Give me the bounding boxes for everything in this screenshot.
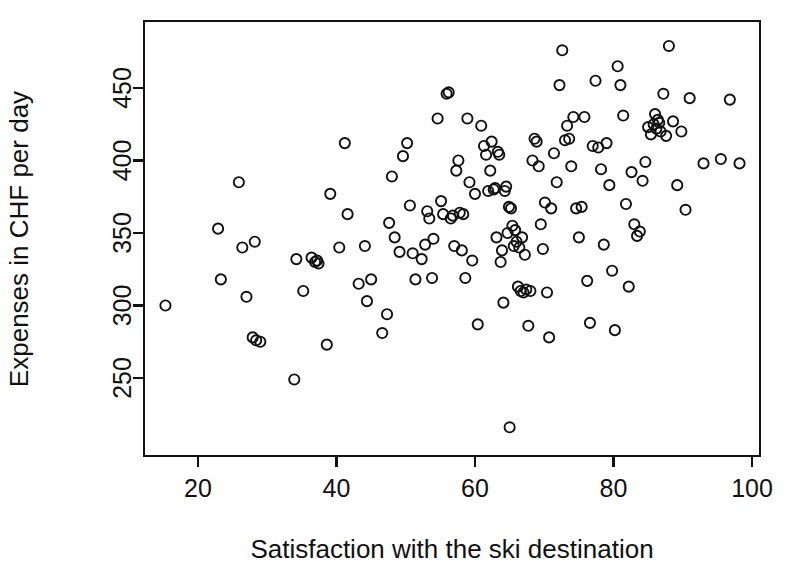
data-point (566, 161, 576, 171)
x-axis-ticks: 20406080100 (184, 456, 773, 502)
data-points-layer (160, 41, 744, 433)
data-point (390, 232, 400, 242)
data-point (417, 254, 427, 264)
data-point (451, 166, 461, 176)
data-point (626, 167, 636, 177)
data-point (523, 321, 533, 331)
data-point (613, 61, 623, 71)
data-point (491, 232, 501, 242)
chart-figure: 250300350400450 20406080100 Expenses in … (0, 0, 792, 577)
y-tick-label: 250 (108, 357, 136, 399)
data-point (289, 374, 299, 384)
data-point (402, 138, 412, 148)
data-point (664, 41, 674, 51)
y-axis-ticks: 250300350400450 (108, 67, 144, 399)
data-point (568, 112, 578, 122)
data-point (398, 151, 408, 161)
x-tick-label: 20 (184, 474, 212, 502)
data-point (405, 200, 415, 210)
data-point (298, 286, 308, 296)
data-point (596, 164, 606, 174)
data-point (624, 282, 634, 292)
data-point (536, 219, 546, 229)
y-tick-label: 350 (108, 212, 136, 254)
data-point (590, 76, 600, 86)
data-point (384, 218, 394, 228)
data-point (640, 157, 650, 167)
data-point (237, 242, 247, 252)
y-tick-label: 450 (108, 67, 136, 109)
data-point (464, 177, 474, 187)
data-point (637, 176, 647, 186)
data-point (497, 245, 507, 255)
x-tick-label: 60 (461, 474, 489, 502)
data-point (334, 242, 344, 252)
data-point (615, 80, 625, 90)
data-point (549, 148, 559, 158)
scatter-plot-canvas: 250300350400450 20406080100 Expenses in … (0, 0, 792, 577)
data-point (291, 254, 301, 264)
data-point (599, 240, 609, 250)
x-tick-label: 40 (323, 474, 351, 502)
data-point (342, 209, 352, 219)
x-tick-label: 100 (731, 474, 773, 502)
data-point (160, 300, 170, 310)
data-point (340, 138, 350, 148)
data-point (473, 319, 483, 329)
data-point (534, 161, 544, 171)
data-point (382, 309, 392, 319)
data-point (325, 189, 335, 199)
data-point (387, 171, 397, 181)
x-axis-title: Satisfaction with the ski destination (250, 534, 653, 564)
data-point (725, 95, 735, 105)
data-point (538, 244, 548, 254)
y-tick-label: 400 (108, 140, 136, 182)
data-point (427, 273, 437, 283)
data-point (582, 276, 592, 286)
data-point (362, 296, 372, 306)
data-point (366, 274, 376, 284)
data-point (216, 274, 226, 284)
data-point (698, 158, 708, 168)
data-point (460, 273, 470, 283)
data-point (618, 110, 628, 120)
data-point (250, 237, 260, 247)
data-point (453, 155, 463, 165)
data-point (505, 422, 515, 432)
data-point (241, 292, 251, 302)
data-point (610, 325, 620, 335)
data-point (601, 138, 611, 148)
y-axis-title: Expenses in CHF per day (4, 91, 34, 387)
data-point (433, 113, 443, 123)
data-point (496, 257, 506, 267)
data-point (532, 137, 542, 147)
data-point (527, 155, 537, 165)
data-point (467, 255, 477, 265)
data-point (579, 112, 589, 122)
data-point (552, 177, 562, 187)
data-point (680, 205, 690, 215)
data-point (394, 247, 404, 257)
data-point (607, 266, 617, 276)
data-point (540, 197, 550, 207)
data-point (428, 234, 438, 244)
data-point (520, 250, 530, 260)
data-point (470, 189, 480, 199)
data-point (377, 328, 387, 338)
data-point (604, 180, 614, 190)
data-point (574, 232, 584, 242)
data-point (458, 209, 468, 219)
data-point (354, 279, 364, 289)
data-point (234, 177, 244, 187)
x-tick-label: 80 (600, 474, 628, 502)
data-point (585, 318, 595, 328)
data-point (485, 166, 495, 176)
data-point (554, 80, 564, 90)
data-point (557, 45, 567, 55)
y-tick-label: 300 (108, 285, 136, 327)
data-point (734, 158, 744, 168)
data-point (658, 89, 668, 99)
data-point (676, 126, 686, 136)
data-point (672, 180, 682, 190)
data-point (544, 332, 554, 342)
